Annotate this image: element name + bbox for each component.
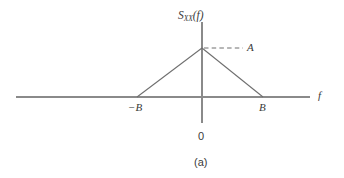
figure-caption: (a) xyxy=(194,157,207,168)
psd-function-subscript: XX xyxy=(184,14,193,23)
tick-label-negative-b: −B xyxy=(128,102,142,113)
amplitude-label: A xyxy=(247,42,254,53)
psd-function-label: SXX(f) xyxy=(178,10,204,23)
x-axis-label: f xyxy=(318,90,321,101)
triangle-right-edge xyxy=(202,48,263,97)
tick-label-positive-b: B xyxy=(259,102,266,113)
triangle-left-edge xyxy=(137,48,202,97)
spectral-density-plot xyxy=(0,0,344,178)
psd-function-arg: (f) xyxy=(193,9,204,21)
figure-container: SXX(f) A f −B B 0 (a) xyxy=(0,0,344,178)
origin-label: 0 xyxy=(198,131,204,142)
